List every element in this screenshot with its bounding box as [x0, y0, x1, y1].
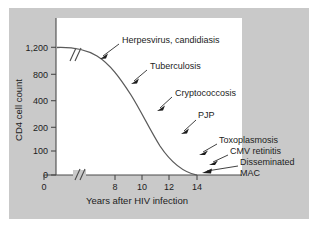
x-ticks-group	[44, 175, 197, 180]
y-tick-labels-group: 1,200 800 400 200 100 0	[25, 43, 48, 181]
x-tick-label-12: 12	[164, 182, 174, 192]
annotation-arrow-disseminated-mac	[202, 169, 212, 174]
annotation-leader-pjp	[184, 120, 196, 131]
annotation-leader-cmv-retinitis	[213, 155, 228, 162]
x-tick-label-10: 10	[137, 182, 147, 192]
annotation-leader-cryptococcosis	[160, 97, 172, 108]
annotation-label-cmv-retinitis: CMV retinitis	[230, 146, 282, 156]
annotation-label-tuberculosis: Tuberculosis	[150, 61, 201, 71]
y-tick-label-800: 800	[33, 70, 48, 80]
annotation-leader-herpesvirus	[103, 44, 119, 56]
annotation-tuberculosis: Tuberculosis	[131, 61, 201, 84]
x-tick-labels-group: 0 8 10 12 14	[41, 182, 202, 192]
y-tick-label-1200: 1,200	[25, 43, 48, 53]
x-axis-title: Years after HIV infection	[86, 195, 188, 206]
annotation-cryptococcosis: Cryptococcosis	[157, 88, 237, 111]
x-tick-label-14: 14	[192, 182, 202, 192]
annotation-label-disseminated: Disseminated	[240, 157, 295, 167]
x-tick-label-0: 0	[41, 182, 46, 192]
annotation-arrow-toxoplasmosis	[199, 151, 208, 156]
annotation-arrow-tuberculosis	[131, 79, 139, 85]
annotation-label-herpesvirus: Herpesvirus, candidiasis	[122, 35, 220, 45]
annotation-label-pjp: PJP	[198, 110, 215, 120]
annotation-arrow-cmv-retinitis	[209, 161, 218, 166]
y-tick-label-100: 100	[33, 146, 48, 156]
annotation-herpesvirus-candidiasis: Herpesvirus, candidiasis	[100, 35, 220, 59]
annotation-pjp: PJP	[181, 110, 215, 134]
y-axis-title: CD4 cell count	[13, 79, 24, 141]
chart-screenshot: 1,200 800 400 200 100 0 0 8 10 12 14	[0, 0, 319, 228]
annotation-label-cryptococcosis: Cryptococcosis	[175, 88, 237, 98]
y-tick-label-400: 400	[33, 96, 48, 106]
y-ticks-group	[51, 47, 56, 175]
annotation-leader-toxoplasmosis	[203, 144, 217, 152]
y-tick-label-200: 200	[33, 123, 48, 133]
cd4-decline-chart: 1,200 800 400 200 100 0 0 8 10 12 14	[0, 0, 319, 228]
annotation-leader-tuberculosis	[134, 70, 147, 81]
annotation-label-toxoplasmosis: Toxoplasmosis	[219, 135, 279, 145]
annotation-label-mac: MAC	[240, 168, 261, 178]
x-axis-break-icon	[73, 169, 86, 181]
x-tick-label-8: 8	[112, 182, 117, 192]
annotation-arrow-pjp	[181, 129, 189, 135]
annotation-arrow-cryptococcosis	[157, 106, 165, 112]
